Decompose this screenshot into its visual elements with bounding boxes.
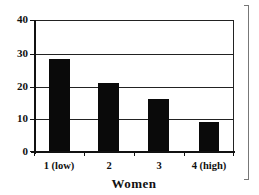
y-label-40: 40: [2, 14, 28, 25]
frame-bracket-bottom-tick: [244, 179, 249, 180]
bar-3: [148, 99, 169, 152]
x-tick: [233, 152, 234, 156]
gridline-30: [34, 54, 234, 55]
x-axis-title: Women: [34, 176, 234, 192]
y-label-10: 10: [2, 113, 28, 124]
bar-1-low: [49, 59, 70, 152]
x-axis: [31, 151, 235, 153]
y-label-0: 0: [2, 146, 28, 157]
x-label-1-low: 1 (low): [34, 160, 84, 171]
y-tick: [30, 20, 35, 21]
x-label-4-high: 4 (high): [184, 160, 234, 171]
y-tick: [30, 87, 35, 88]
x-tick: [134, 152, 135, 156]
x-tick: [34, 152, 35, 156]
bar-4-high: [199, 122, 219, 152]
x-label-2: 2: [84, 160, 134, 171]
y-tick: [30, 54, 35, 55]
y-label-30: 30: [2, 48, 28, 59]
bar-2: [98, 83, 119, 152]
y-label-20: 20: [2, 81, 28, 92]
y-tick: [30, 119, 35, 120]
x-label-3: 3: [134, 160, 184, 171]
frame-bracket: [248, 5, 249, 180]
x-tick: [184, 152, 185, 156]
x-tick: [84, 152, 85, 156]
frame-bracket-top-tick: [244, 5, 249, 6]
